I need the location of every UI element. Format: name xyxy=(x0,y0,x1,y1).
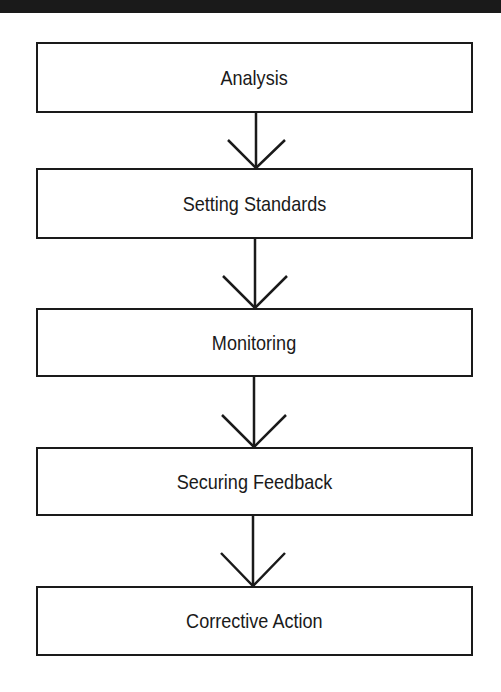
down-arrow-icon xyxy=(0,516,501,587)
step-label: Analysis xyxy=(221,66,288,90)
step-label: Setting Standards xyxy=(183,192,327,216)
down-arrow-icon xyxy=(0,239,501,309)
step-box-analysis: Analysis xyxy=(36,42,473,113)
down-arrow-icon xyxy=(0,113,501,169)
step-box-securing-feedback: Securing Feedback xyxy=(36,447,473,516)
down-arrow-icon xyxy=(0,377,501,448)
step-label: Securing Feedback xyxy=(177,470,333,494)
step-box-monitoring: Monitoring xyxy=(36,308,473,377)
step-box-corrective-action: Corrective Action xyxy=(36,586,473,656)
step-box-setting-standards: Setting Standards xyxy=(36,168,473,239)
step-label: Corrective Action xyxy=(186,609,323,633)
top-border-bar xyxy=(0,0,501,13)
step-label: Monitoring xyxy=(212,331,296,355)
